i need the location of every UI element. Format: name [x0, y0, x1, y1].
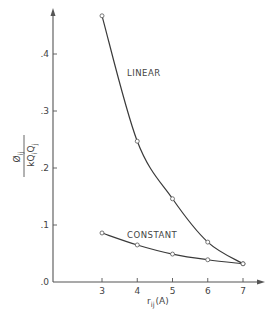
axes	[51, 8, 266, 285]
x-axis-title-sub: ij	[151, 301, 155, 309]
svg-text:kQiQj: kQiQj	[26, 143, 39, 166]
y-tick-label: .4	[40, 49, 49, 59]
x-axis-title-unit: (A)	[156, 296, 169, 306]
data-point-constant	[171, 252, 175, 256]
y-tick-label: .1	[40, 220, 49, 230]
data-point-linear	[206, 240, 210, 244]
data-point-linear	[171, 197, 175, 201]
x-tick-label: 5	[170, 286, 176, 296]
x-axis-title: rij(A)	[147, 296, 169, 309]
svg-text:rij(A): rij(A)	[147, 296, 169, 309]
series-curves	[102, 16, 243, 264]
figure: .0.1.2.3.434567 LINEAR CONSTANT rij(A) Ø…	[0, 0, 269, 318]
axis-ticks: .0.1.2.3.434567	[40, 49, 245, 296]
data-point-linear	[100, 14, 104, 18]
y-axis-arrow-icon	[51, 8, 56, 16]
series-label-linear: LINEAR	[127, 68, 161, 78]
y-tick-label: .0	[40, 277, 49, 287]
y-tick-label: .3	[40, 106, 49, 116]
series-label-constant: CONSTANT	[127, 230, 178, 240]
data-point-constant	[100, 231, 104, 235]
y-axis-title-denominator-mid: Q	[26, 145, 36, 152]
x-tick-label: 4	[134, 286, 140, 296]
y-tick-label: .2	[40, 163, 49, 173]
data-point-constant	[206, 258, 210, 262]
x-tick-label: 3	[99, 286, 105, 296]
line-chart: .0.1.2.3.434567 LINEAR CONSTANT rij(A) Ø…	[0, 0, 269, 318]
data-point-constant	[135, 243, 139, 247]
data-point-linear	[135, 139, 139, 143]
y-axis-title-numerator: Ø	[12, 155, 22, 162]
y-axis-title-denominator-sub2: j	[31, 143, 39, 146]
y-axis-title: Øij kQiQj	[12, 135, 39, 177]
x-axis-arrow-icon	[257, 280, 265, 285]
data-markers	[100, 14, 245, 266]
x-tick-label: 7	[240, 286, 246, 296]
curve-linear	[102, 16, 243, 264]
series-labels: LINEAR CONSTANT	[127, 68, 178, 240]
x-tick-label: 6	[205, 286, 211, 296]
y-axis-title-denominator: kQ	[26, 154, 36, 166]
svg-text:Øij: Øij	[12, 151, 25, 162]
data-point-constant	[241, 262, 245, 266]
